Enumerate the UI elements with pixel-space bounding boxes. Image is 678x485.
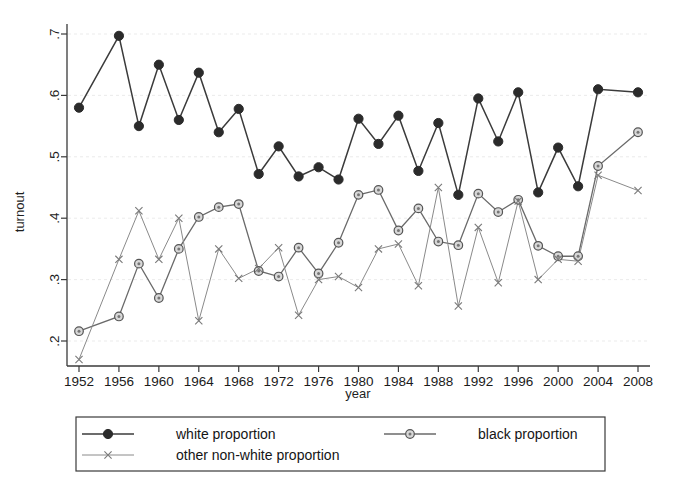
x-tick-label: 1996	[503, 374, 533, 389]
data-point-white-proportion	[574, 182, 583, 191]
x-axis-title: year	[345, 386, 371, 401]
y-tick-label: .5	[47, 151, 62, 162]
chart-figure: 1952195619601964196819721976198019841988…	[0, 0, 678, 485]
data-point-black-proportion-center	[337, 241, 340, 244]
data-point-white-proportion	[454, 190, 463, 199]
data-point-white-proportion	[394, 111, 403, 120]
data-point-black-proportion-center	[237, 203, 240, 206]
data-point-black-proportion-center	[577, 255, 580, 258]
chart-legend: white proportionblack proportionother no…	[76, 417, 605, 471]
x-tick-label: 1956	[104, 374, 134, 389]
x-tick-label: 1968	[224, 374, 254, 389]
data-point-black-proportion-center	[297, 246, 300, 249]
data-point-white-proportion	[74, 103, 83, 112]
x-tick-label: 1960	[144, 374, 174, 389]
data-point-black-proportion-center	[437, 240, 440, 243]
legend-marker-filled-circle	[103, 429, 112, 438]
data-point-black-proportion-center	[637, 131, 640, 134]
x-tick-label: 1976	[304, 374, 334, 389]
data-point-black-proportion-center	[277, 275, 280, 278]
data-point-white-proportion	[214, 128, 223, 137]
legend-label: other non-white proportion	[176, 447, 339, 463]
data-point-white-proportion	[154, 60, 163, 69]
x-tick-label: 1964	[184, 374, 215, 389]
legend-marker-open-circle-center	[409, 433, 412, 436]
data-point-white-proportion	[334, 175, 343, 184]
data-point-black-proportion-center	[497, 211, 500, 214]
data-point-white-proportion	[633, 88, 642, 97]
x-tick-label: 1972	[264, 374, 294, 389]
data-point-black-proportion-center	[217, 206, 220, 209]
data-point-black-proportion-center	[417, 207, 420, 210]
data-point-black-proportion-center	[537, 244, 540, 247]
data-point-black-proportion-center	[477, 192, 480, 195]
data-point-white-proportion	[294, 172, 303, 181]
x-tick-label: 2000	[543, 374, 573, 389]
data-point-white-proportion	[114, 31, 123, 40]
data-point-white-proportion	[274, 142, 283, 151]
data-point-white-proportion	[494, 137, 503, 146]
data-point-white-proportion	[534, 188, 543, 197]
x-tick-label: 1992	[463, 374, 493, 389]
data-point-black-proportion-center	[117, 315, 120, 318]
legend-label: black proportion	[478, 426, 578, 442]
data-point-white-proportion	[474, 94, 483, 103]
data-point-white-proportion	[374, 139, 383, 148]
x-tick-label: 1952	[64, 374, 94, 389]
data-point-black-proportion-center	[177, 247, 180, 250]
legend-label: white proportion	[175, 426, 276, 442]
y-tick-label: .4	[47, 212, 62, 224]
data-point-white-proportion	[414, 166, 423, 175]
data-point-white-proportion	[194, 68, 203, 77]
data-point-black-proportion-center	[597, 165, 600, 168]
data-point-black-proportion-center	[78, 330, 81, 333]
data-point-white-proportion	[434, 118, 443, 127]
y-tick-label: .2	[47, 335, 62, 346]
data-point-black-proportion-center	[377, 188, 380, 191]
y-axis-title: turnout	[12, 191, 27, 232]
data-point-black-proportion-center	[157, 297, 160, 300]
data-point-black-proportion-center	[137, 262, 140, 265]
data-point-black-proportion-center	[557, 255, 560, 258]
data-point-white-proportion	[554, 143, 563, 152]
data-point-black-proportion-center	[317, 272, 320, 275]
data-point-black-proportion-center	[457, 244, 460, 247]
x-tick-label: 1984	[383, 374, 414, 389]
data-point-black-proportion-center	[357, 193, 360, 196]
data-point-black-proportion-center	[397, 229, 400, 232]
data-point-white-proportion	[354, 114, 363, 123]
y-tick-label: .3	[47, 274, 62, 285]
data-point-white-proportion	[254, 169, 263, 178]
data-point-white-proportion	[234, 104, 243, 113]
data-point-white-proportion	[514, 88, 523, 97]
turnout-by-race-line-chart: 1952195619601964196819721976198019841988…	[0, 0, 678, 485]
x-tick-label: 1988	[423, 374, 453, 389]
y-tick-label: .7	[47, 28, 62, 39]
x-tick-label: 2004	[583, 374, 614, 389]
data-point-white-proportion	[134, 122, 143, 131]
data-point-black-proportion-center	[197, 215, 200, 218]
x-tick-label: 2008	[623, 374, 653, 389]
data-point-white-proportion	[174, 115, 183, 124]
data-point-white-proportion	[593, 85, 602, 94]
data-point-white-proportion	[314, 163, 323, 172]
y-tick-label: .6	[47, 90, 62, 101]
